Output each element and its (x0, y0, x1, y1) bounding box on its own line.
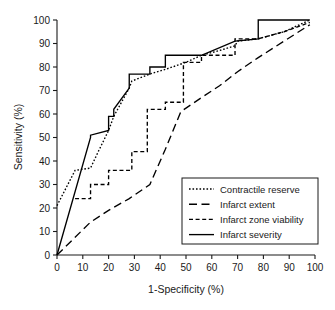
x-tick-label: 40 (155, 262, 167, 273)
y-axis-title: Sensitivity (%) (12, 104, 24, 171)
y-tick-label: 40 (39, 156, 51, 167)
roc-chart: 0102030405060708090100 01020304050607080… (0, 0, 335, 310)
x-tick-label: 80 (258, 262, 270, 273)
x-tick-label: 70 (232, 262, 244, 273)
y-tick-label: 20 (39, 203, 51, 214)
chart-canvas: 0102030405060708090100 01020304050607080… (0, 0, 335, 310)
x-axis-title: 1-Specificity (%) (148, 283, 224, 295)
x-tick-label: 30 (129, 262, 141, 273)
x-tick-label: 60 (206, 262, 218, 273)
x-tick-label: 50 (180, 262, 192, 273)
y-tick-label: 50 (39, 132, 51, 143)
x-tick-label: 100 (307, 262, 324, 273)
y-tick-label: 80 (39, 62, 51, 73)
y-tick-label: 60 (39, 109, 51, 120)
y-tick-label: 0 (44, 250, 50, 261)
x-tick-label: 0 (54, 262, 60, 273)
y-tick-label: 10 (39, 226, 51, 237)
y-tick-label: 30 (39, 179, 51, 190)
legend-label-4: Infarct severity (220, 229, 282, 240)
y-tick-label: 100 (33, 15, 50, 26)
legend-label-2: Infarct extent (220, 199, 275, 210)
legend-label-1: Contractile reserve (220, 184, 300, 195)
y-tick-label: 90 (39, 38, 51, 49)
x-tick-label: 20 (103, 262, 115, 273)
chart-legend: Contractile reserveInfarct extentInfarct… (182, 178, 318, 244)
legend-label-3: Infarct zone viability (220, 214, 304, 225)
x-tick-label: 10 (77, 262, 89, 273)
x-tick-label: 90 (284, 262, 296, 273)
y-tick-label: 70 (39, 85, 51, 96)
